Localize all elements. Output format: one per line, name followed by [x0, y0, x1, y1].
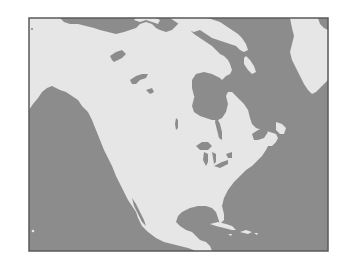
pacific-island-dot — [32, 230, 35, 233]
map-figure — [0, 0, 343, 268]
arctic-island-dot — [31, 28, 33, 30]
north-america-map — [0, 0, 343, 268]
